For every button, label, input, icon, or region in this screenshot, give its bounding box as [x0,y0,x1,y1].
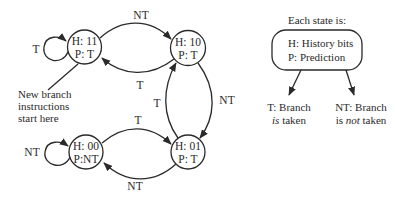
label-10-to-11: T [136,79,143,91]
start-pointer-line [48,64,78,90]
label-self-11: T [32,43,39,55]
label-self-00: NT [24,146,39,158]
legend-history-line: H: History bits [288,37,353,49]
edge-11-to-10-arrow [100,23,171,39]
branch-predictor-diagram: H: 11 P: T H: 10 P: T H: 01 P: T H: 00 P… [0,0,395,201]
state-11-prediction: P: T [75,48,94,60]
start-note-line-1: New branch [18,88,72,100]
legend-not-taken-emph: not [346,114,361,126]
legend-taken-suffix: taken [279,114,306,126]
state-01-history: H: 01 [175,140,201,152]
legend-taken-emph: is [272,114,279,126]
legend-not-taken-suffix: taken [360,114,387,126]
legend-taken-arrow [289,70,301,95]
state-10-history: H: 10 [175,36,201,48]
start-note-line-2: instructions [18,100,69,112]
state-11-history: H: 11 [72,35,98,47]
self-loop-00-arrow [45,142,70,165]
label-01-to-00: NT [127,180,142,192]
state-01-prediction: P: T [178,153,197,165]
legend-heading: Each state is: [288,14,346,26]
legend-taken-line-1: T: Branch [267,101,311,113]
legend-box [272,30,362,70]
state-00-prediction: P:NT [74,153,99,165]
edge-10-to-01-arrow [198,63,212,138]
legend-taken-line-2: is taken [272,114,306,126]
label-00-to-01: T [134,114,141,126]
edge-01-to-00-arrow [104,163,176,179]
legend-not-taken-line-2: is not taken [336,114,387,126]
self-loop-11-arrow [44,37,68,60]
start-note-line-3: start here [18,112,59,124]
label-10-to-01: NT [219,94,234,106]
state-00-history: H: 00 [73,140,99,152]
label-11-to-10: NT [133,9,148,21]
legend-not-taken-line-1: NT: Branch [335,101,387,113]
edge-00-to-01-arrow [102,129,171,144]
legend-prediction-line: P: Prediction [288,51,346,63]
legend-not-taken-arrow [346,70,354,95]
label-01-to-10: T [153,97,160,109]
edge-01-to-10-arrow [166,63,178,138]
legend-not-taken-pre: is [336,114,346,126]
edge-10-to-11-arrow [102,58,174,72]
state-10-prediction: P: T [178,49,197,61]
